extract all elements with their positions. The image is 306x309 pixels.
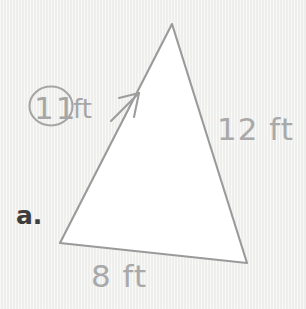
left-side-length-unit: ft [73, 96, 92, 122]
worksheet-figure-canvas: 11 ft 12 ft 8 ft a. [0, 0, 306, 309]
right-side-length-label: 12 ft [217, 114, 294, 145]
triangle-diagram [0, 0, 306, 309]
left-side-length-value: 11 [34, 93, 77, 124]
problem-letter-label: a. [16, 203, 42, 228]
base-length-label: 8 ft [91, 261, 147, 292]
